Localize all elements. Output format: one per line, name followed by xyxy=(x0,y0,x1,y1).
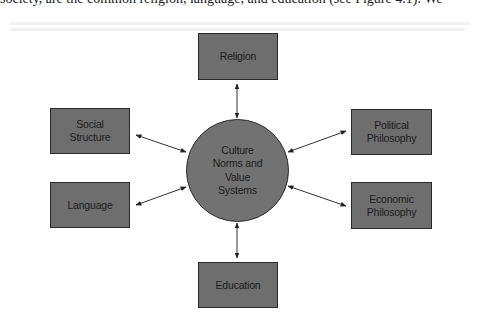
node-religion: Religion xyxy=(198,33,278,80)
center-label: Culture Norms and Value Systems xyxy=(213,144,263,198)
node-label: Language xyxy=(67,199,112,212)
arrow-political-philosophy xyxy=(288,131,346,152)
node-label: Education xyxy=(216,279,261,292)
arrow-social-structure xyxy=(136,135,186,152)
arrow-economic-philosophy xyxy=(288,186,346,206)
node-economic-philosophy: Economic Philosophy xyxy=(351,182,432,229)
node-label: Political Philosophy xyxy=(367,119,416,145)
node-education: Education xyxy=(198,262,278,308)
node-social-structure: Social Structure xyxy=(50,108,130,154)
node-political-philosophy: Political Philosophy xyxy=(351,109,432,155)
node-language: Language xyxy=(50,182,130,228)
center-node-culture-norms: Culture Norms and Value Systems xyxy=(186,119,289,222)
node-label: Religion xyxy=(220,50,256,63)
node-label: Economic Philosophy xyxy=(367,193,416,219)
node-label: Social Structure xyxy=(70,118,111,144)
arrow-language xyxy=(136,187,186,205)
